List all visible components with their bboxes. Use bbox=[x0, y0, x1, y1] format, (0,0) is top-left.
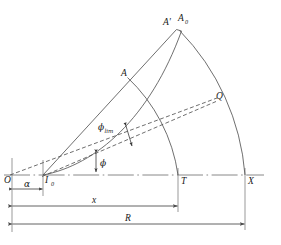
point-label-A0-sub: 0 bbox=[185, 18, 189, 25]
point-label-I0: I 0 bbox=[44, 175, 55, 187]
inner-arc bbox=[128, 78, 179, 176]
point-label-A-prime: A' bbox=[162, 17, 172, 27]
point-label-O: O bbox=[4, 175, 11, 185]
point-label-A0-base: A bbox=[177, 13, 184, 23]
point-label-I0-base: I bbox=[44, 175, 49, 185]
point-label-A: A bbox=[120, 68, 127, 78]
geometric-diagram-svg: O I 0 T X A A' A 0 Q ϕ ϕ lim α x bbox=[0, 0, 281, 245]
dimension-label-alpha: α bbox=[24, 179, 30, 189]
angle-label-phi: ϕ bbox=[100, 158, 106, 168]
lower-dashed-ray bbox=[42, 102, 216, 177]
angle-label-phi-lim: ϕ lim bbox=[98, 122, 113, 134]
figure-caption bbox=[0, 235, 281, 245]
dimension-label-R: R bbox=[124, 213, 131, 223]
curved-trajectory bbox=[43, 31, 182, 175]
outer-arc bbox=[180, 31, 246, 176]
point-label-A0: A 0 bbox=[177, 13, 189, 25]
figure-root: O I 0 T X A A' A 0 Q ϕ ϕ lim α x bbox=[0, 0, 281, 245]
dimension-label-x: x bbox=[91, 195, 97, 205]
point-label-X: X bbox=[247, 176, 255, 186]
angle-label-phi-lim-base: ϕ bbox=[98, 122, 104, 132]
phi-lim-measure-arrow bbox=[126, 126, 132, 146]
apex-connector bbox=[177, 30, 182, 32]
upper-solid-ray bbox=[43, 30, 177, 176]
centerline-dashed-ray bbox=[10, 98, 217, 175]
point-label-T: T bbox=[181, 176, 187, 186]
angle-label-phi-lim-sub: lim bbox=[105, 128, 114, 134]
point-label-Q: Q bbox=[216, 91, 223, 101]
point-label-I0-sub: 0 bbox=[51, 180, 55, 187]
